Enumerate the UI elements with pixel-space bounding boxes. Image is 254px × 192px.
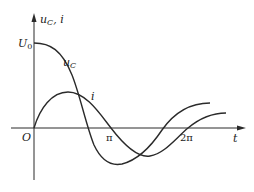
damped-oscillation-diagram: uC, i U0 uC i O π 2π t: [0, 0, 254, 192]
uc-curve-label: uC: [63, 56, 76, 70]
uc-curve: [34, 43, 210, 164]
tick-label-pi: π: [106, 132, 113, 143]
i-curve-label: i: [91, 90, 95, 103]
x-axis-arrow-icon: [237, 126, 246, 131]
y-axis-label: uC, i: [40, 13, 64, 27]
x-axis-label: t: [233, 132, 238, 145]
tick-label-2pi: 2π: [180, 132, 193, 143]
u0-label: U0: [18, 37, 32, 51]
y-axis-arrow-icon: [32, 13, 37, 22]
i-curve: [34, 92, 226, 156]
origin-label: O: [22, 131, 31, 144]
